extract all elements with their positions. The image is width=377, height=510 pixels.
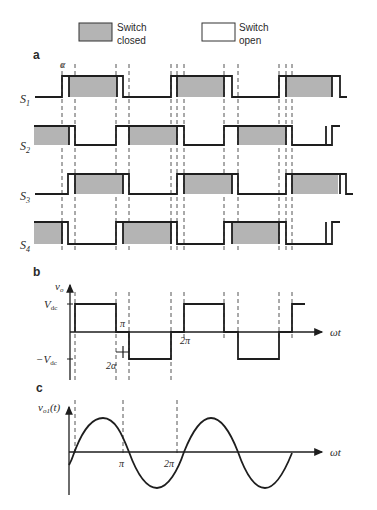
s3-label: S3 (20, 189, 30, 205)
legend-closed-label-2: closed (117, 35, 146, 46)
s1-waveform (35, 76, 347, 97)
neg-vdc-label: −Vdc (36, 353, 57, 367)
panel-c-label: c (36, 381, 43, 395)
panel-b: b vo Vdc −Vdc π 2π 2α ωt (33, 265, 342, 380)
legend: Switch closed Switch open (79, 22, 268, 46)
c-x-label: ωt (330, 446, 342, 458)
s2-label: S2 (20, 139, 30, 155)
panel-b-label: b (33, 265, 40, 279)
vdc-label: Vdc (44, 298, 57, 312)
vo1-sine-waveform (69, 418, 292, 488)
legend-open-swatch (202, 23, 235, 41)
s4-waveform (34, 222, 340, 244)
c-two-pi-label: 2π (164, 458, 175, 469)
c-pi-label: π (119, 458, 125, 469)
b-x-label: ωt (330, 326, 342, 338)
b-y-label: vo (55, 280, 64, 294)
two-alpha-bracket (116, 346, 129, 358)
s4-label: S4 (20, 238, 30, 254)
inverter-switching-diagram: Switch closed Switch open a α S1 (0, 0, 377, 510)
s2-waveform (34, 126, 340, 145)
legend-closed-swatch (79, 23, 112, 41)
panel-a-label: a (33, 48, 40, 62)
panel-c: c vo1(t) π 2π ωt (36, 381, 342, 495)
b-two-pi-label: 2π (180, 335, 191, 346)
s1-label: S1 (20, 92, 30, 108)
s3-waveform (35, 174, 353, 194)
two-alpha-label: 2α (106, 360, 117, 371)
legend-open-label-2: open (239, 35, 261, 46)
alpha-label: α (60, 59, 66, 70)
legend-closed-label-1: Switch (117, 22, 146, 33)
c-y-label: vo1(t) (38, 401, 61, 415)
b-pi-label: π (120, 318, 126, 329)
legend-open-label-1: Switch (239, 22, 268, 33)
panel-a: a α S1 S2 (20, 48, 353, 254)
